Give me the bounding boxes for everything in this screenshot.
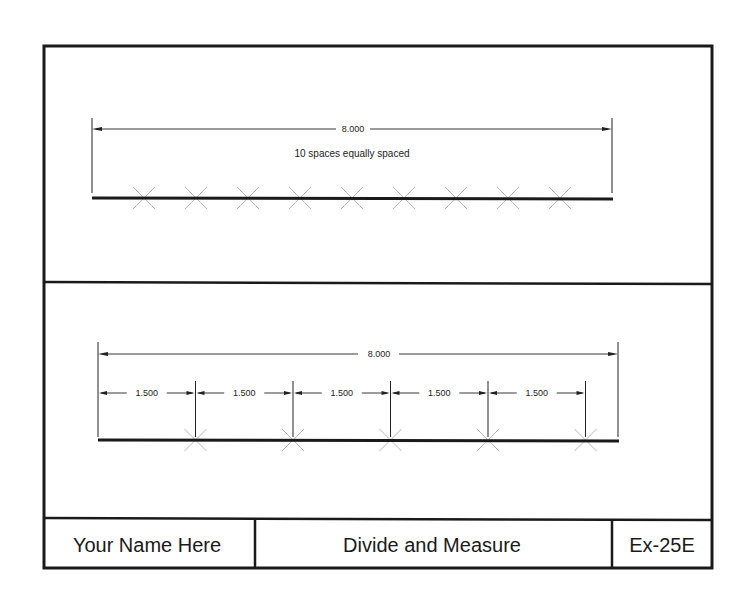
- bottom-view-measure: 8.000 1.5001.5001.5001.5001.500: [98, 342, 619, 451]
- student-name: Your Name Here: [73, 534, 221, 556]
- drawing-sheet: 8.000 10 spaces equally spaced 8.000 1.5…: [0, 0, 742, 600]
- arrowhead-icon: [577, 391, 585, 395]
- segment-dimension-label: 1.500: [525, 388, 548, 398]
- segment-dimension-label: 1.500: [428, 388, 451, 398]
- exercise-number: Ex-25E: [629, 534, 695, 556]
- arrowhead-icon: [294, 391, 302, 395]
- arrowhead-icon: [489, 391, 497, 395]
- baseline-segment: [98, 440, 619, 441]
- arrowhead-right-icon: [602, 127, 612, 131]
- top-view-divide: 8.000 10 spaces equally spaced: [92, 118, 613, 209]
- arrowhead-icon: [284, 391, 292, 395]
- arrowhead-icon: [99, 391, 107, 395]
- baseline-segment: [92, 198, 613, 199]
- arrowhead-icon: [479, 391, 487, 395]
- title-block-divider: [44, 518, 712, 520]
- arrowhead-right-icon: [608, 352, 618, 356]
- total-dimension-label: 8.000: [342, 124, 365, 134]
- segment-dimension-label: 1.500: [135, 388, 158, 398]
- divide-note: 10 spaces equally spaced: [294, 148, 409, 159]
- arrowhead-icon: [382, 391, 390, 395]
- segment-dimension-label: 1.500: [330, 388, 353, 398]
- arrowhead-left-icon: [92, 127, 102, 131]
- arrowhead-icon: [392, 391, 400, 395]
- drawing-title: Divide and Measure: [343, 534, 521, 556]
- arrowhead-icon: [197, 391, 205, 395]
- view-divider: [44, 282, 712, 284]
- segment-dimension-label: 1.500: [233, 388, 256, 398]
- total-dimension-label: 8.000: [368, 349, 391, 359]
- arrowhead-icon: [187, 391, 195, 395]
- arrowhead-left-icon: [98, 352, 108, 356]
